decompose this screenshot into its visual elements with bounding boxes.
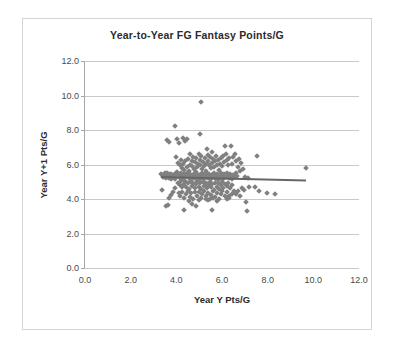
scatter-point xyxy=(228,143,234,149)
x-tick-label: 12.0 xyxy=(350,275,368,285)
scatter-point xyxy=(193,203,199,209)
gridline-y xyxy=(85,130,359,131)
y-tick-label: 12.0 xyxy=(61,56,79,66)
scatter-point xyxy=(197,131,203,137)
y-tick-label: 8.0 xyxy=(66,125,79,135)
y-tick-mark xyxy=(81,234,85,235)
scatter-point xyxy=(223,144,229,150)
plot-area: Year Y Pts/G 0.02.04.06.08.010.012.00.02… xyxy=(84,61,359,269)
scatter-point xyxy=(199,99,205,105)
y-tick-mark xyxy=(81,268,85,269)
gridline-y xyxy=(85,234,359,235)
y-tick-label: 2.0 xyxy=(66,229,79,239)
scatter-point xyxy=(247,184,253,190)
x-tick-label: 6.0 xyxy=(216,275,229,285)
scatter-point xyxy=(159,187,165,193)
gridline-y xyxy=(85,199,359,200)
scatter-point xyxy=(264,190,270,196)
scatter-point xyxy=(272,191,278,197)
x-tick-label: 4.0 xyxy=(170,275,183,285)
scatter-point xyxy=(229,182,235,188)
x-tick-label: 10.0 xyxy=(305,275,323,285)
scatter-point xyxy=(209,207,215,213)
scatter-point xyxy=(196,198,202,204)
gridline-y xyxy=(85,61,359,62)
y-tick-mark xyxy=(81,96,85,97)
scatter-point xyxy=(165,202,171,208)
y-tick-label: 4.0 xyxy=(66,194,79,204)
x-tick-label: 0.0 xyxy=(79,275,92,285)
scatter-point xyxy=(244,209,250,215)
scatter-point xyxy=(176,141,182,147)
y-tick-mark xyxy=(81,61,85,62)
y-tick-mark xyxy=(81,199,85,200)
y-axis-title: Year Y+1 Pts/G xyxy=(37,61,51,269)
scatter-point xyxy=(303,165,309,171)
x-axis-title: Year Y Pts/G xyxy=(85,294,359,305)
y-tick-mark xyxy=(81,130,85,131)
scatter-point xyxy=(256,188,262,194)
y-tick-label: 10.0 xyxy=(61,91,79,101)
x-tick-label: 8.0 xyxy=(261,275,274,285)
scatter-point xyxy=(255,153,261,159)
y-tick-mark xyxy=(81,165,85,166)
scatter-point xyxy=(237,193,243,199)
gridline-y xyxy=(85,96,359,97)
scatter-point xyxy=(172,123,178,129)
chart-title: Year-to-Year FG Fantasy Points/G xyxy=(23,29,371,41)
chart-frame: Year-to-Year FG Fantasy Points/G Year Y … xyxy=(22,18,372,330)
scatter-point xyxy=(166,139,172,145)
y-tick-label: 6.0 xyxy=(66,160,79,170)
scatter-point xyxy=(181,207,187,213)
x-tick-label: 2.0 xyxy=(124,275,137,285)
y-tick-label: 0.0 xyxy=(66,263,79,273)
scatter-point xyxy=(184,136,190,142)
